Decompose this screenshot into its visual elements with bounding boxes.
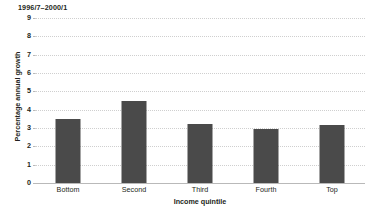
bar[interactable]	[56, 119, 81, 183]
gridline	[35, 183, 365, 184]
x-axis-tick-label: Bottom	[57, 185, 80, 194]
y-axis-tick-label: 1	[27, 161, 31, 168]
y-axis-tick-label: 4	[27, 106, 31, 113]
bar-chart-figure: 1996/7–2000/1 Percentage annual growth 0…	[0, 0, 371, 216]
y-axis-tick-label: 0	[27, 179, 31, 186]
bar-group: Bottom	[35, 18, 101, 183]
bar[interactable]	[254, 129, 279, 183]
y-axis-tick-label: 8	[27, 33, 31, 40]
bar-group: Second	[101, 18, 167, 183]
bar-group: Third	[167, 18, 233, 183]
y-axis-tick-label: 3	[27, 124, 31, 131]
y-axis-tick-label: 7	[27, 51, 31, 58]
x-axis-title: Income quintile	[35, 197, 365, 206]
bar-series: BottomSecondThirdFourthTop	[35, 18, 365, 183]
y-axis-tick-label: 5	[27, 88, 31, 95]
bar[interactable]	[188, 124, 213, 183]
y-axis-tick-mark	[33, 183, 35, 184]
x-axis-tick-label: Fourth	[256, 185, 277, 194]
y-axis-tick-label: 9	[27, 14, 31, 21]
y-axis-title: Percentage annual growth	[13, 22, 22, 172]
y-axis-tick-label: 6	[27, 69, 31, 76]
x-axis-tick-label: Top	[326, 185, 338, 194]
x-axis-tick-label: Second	[122, 185, 146, 194]
bar[interactable]	[320, 125, 345, 183]
bar-group: Top	[299, 18, 365, 183]
chart-title: 1996/7–2000/1	[18, 3, 67, 12]
plot-area: 0123456789 BottomSecondThirdFourthTop	[35, 18, 365, 183]
bar-group: Fourth	[233, 18, 299, 183]
y-axis-tick-label: 2	[27, 143, 31, 150]
bar[interactable]	[122, 101, 147, 183]
x-axis-tick-label: Third	[192, 185, 208, 194]
